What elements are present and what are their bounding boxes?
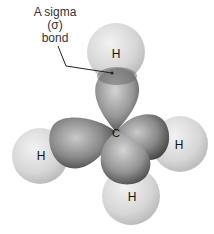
hydrogen-left-label: H	[37, 149, 46, 163]
hydrogen-bottom-label: H	[128, 190, 137, 204]
annotation-line-3: bond	[20, 32, 90, 45]
carbon-label: C	[112, 127, 120, 139]
sigma-bond-annotation: A sigma (σ) bond	[20, 6, 90, 45]
hydrogen-right-label: H	[175, 138, 184, 152]
hydrogen-top-label: H	[112, 47, 121, 61]
